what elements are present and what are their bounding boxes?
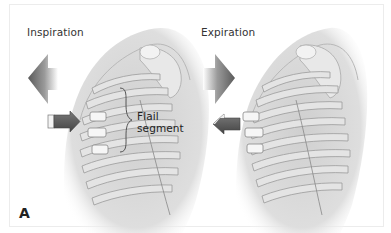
small-arrow-left-icon: [213, 114, 240, 134]
panel-label: A: [19, 205, 30, 221]
flail-label-line2: segment: [137, 122, 184, 134]
flail-label-line1: Flail: [137, 110, 159, 122]
big-arrow-left-icon: [28, 54, 58, 104]
expiration-label: Expiration: [201, 26, 255, 38]
right-torso: [236, 28, 367, 233]
inspiration-label: Inspiration: [27, 26, 84, 38]
